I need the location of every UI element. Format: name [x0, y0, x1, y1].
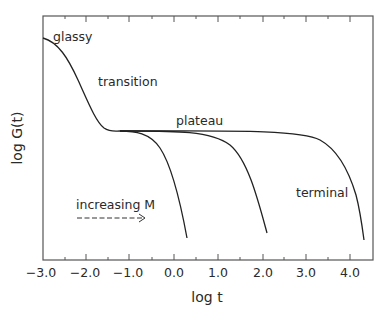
x-axis-ticks [65, 254, 350, 260]
y-axis-label: log G(t) [9, 111, 25, 164]
x-axis-label: log t [191, 289, 223, 305]
relaxation-modulus-chart: −3.0 −2.0 −1.0 0.0 1.0 2.0 3.0 4.0 log t… [0, 0, 385, 311]
x-tick-label: −1.0 [113, 265, 143, 280]
x-tick-label: −2.0 [70, 265, 100, 280]
x-tick-label: 3.0 [296, 265, 316, 280]
plot-frame [43, 16, 373, 260]
curve-medium-m [120, 131, 267, 233]
x-tick-label: −3.0 [26, 265, 56, 280]
annotation-terminal: terminal [296, 185, 348, 200]
annotation-transition: transition [98, 74, 158, 89]
x-tick-label: 2.0 [253, 265, 273, 280]
x-axis-top-ticks [65, 16, 350, 22]
annotation-plateau: plateau [176, 113, 223, 128]
x-tick-label: 0.0 [164, 265, 184, 280]
curve-low-m [120, 131, 187, 238]
annotation-glassy: glassy [53, 29, 93, 44]
x-tick-labels: −3.0 −2.0 −1.0 0.0 1.0 2.0 3.0 4.0 [26, 265, 360, 280]
x-tick-label: 1.0 [208, 265, 228, 280]
x-tick-label: 4.0 [340, 265, 360, 280]
annotation-increasing-m: increasing M [76, 197, 155, 212]
increasing-m-arrow [77, 214, 145, 222]
